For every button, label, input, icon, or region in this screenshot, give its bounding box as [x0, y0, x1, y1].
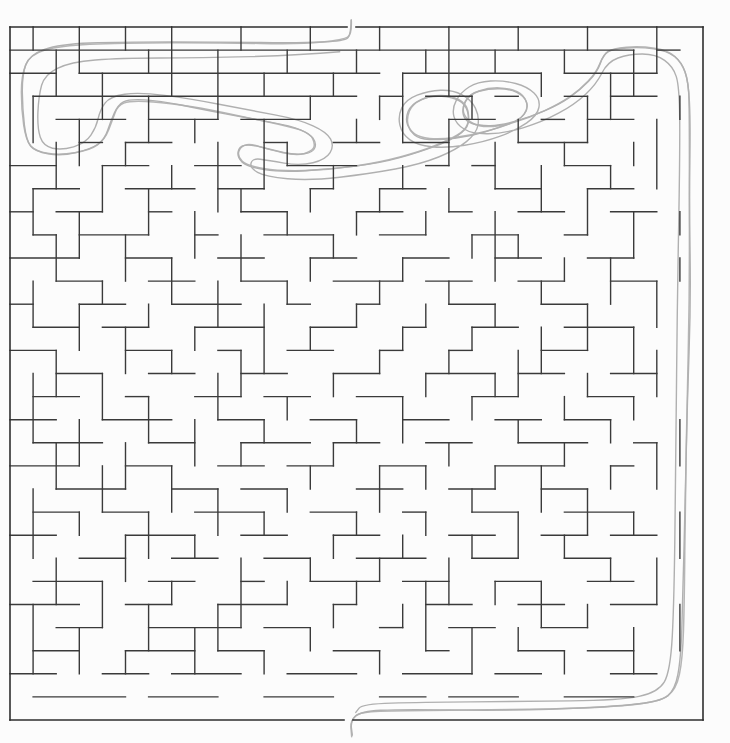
maze-canvas[interactable] [0, 0, 730, 743]
paper-background [0, 0, 730, 743]
maze-page [0, 0, 730, 743]
